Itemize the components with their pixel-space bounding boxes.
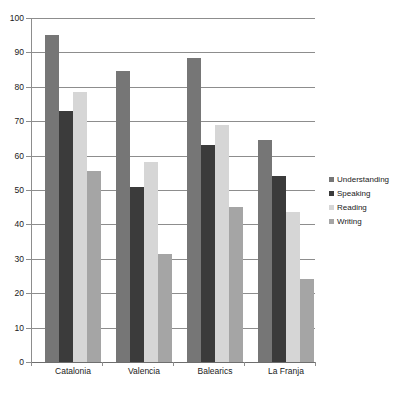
y-tick-label-40: 40 xyxy=(2,220,24,229)
bar-valencia-reading xyxy=(144,162,158,362)
bar-group-la-franja xyxy=(258,18,314,362)
bar-catalonia-writing xyxy=(87,171,101,362)
y-axis-tick-labels: 1009080706050403020100 xyxy=(0,0,24,403)
bar-balearics-writing xyxy=(229,207,243,362)
legend-item-reading[interactable]: Reading xyxy=(329,200,415,214)
bar-catalonia-speaking xyxy=(59,111,73,362)
legend-swatch-speaking xyxy=(329,191,334,196)
legend-item-speaking[interactable]: Speaking xyxy=(329,186,415,200)
legend-swatch-understanding xyxy=(329,177,334,182)
bar-balearics-reading xyxy=(215,125,229,362)
y-tick-label-70: 70 xyxy=(2,117,24,126)
plot-area xyxy=(31,18,315,362)
legend-swatch-reading xyxy=(329,205,334,210)
y-tick-label-60: 60 xyxy=(2,152,24,161)
legend-item-writing[interactable]: Writing xyxy=(329,214,415,228)
bar-catalonia-reading xyxy=(73,92,87,362)
y-tick-label-30: 30 xyxy=(2,255,24,264)
bar-la-franja-speaking xyxy=(272,176,286,362)
y-tick-label-90: 90 xyxy=(2,48,24,57)
bar-valencia-understanding xyxy=(116,71,130,362)
y-tick-label-100: 100 xyxy=(2,14,24,23)
bar-chart: 1009080706050403020100 CataloniaValencia… xyxy=(0,0,415,403)
bar-balearics-speaking xyxy=(201,145,215,362)
bar-group-balearics xyxy=(187,18,243,362)
legend-label-speaking: Speaking xyxy=(337,189,370,198)
y-tick-label-50: 50 xyxy=(2,186,24,195)
y-tick-label-0: 0 xyxy=(2,358,24,367)
y-tick-label-10: 10 xyxy=(2,324,24,333)
legend-label-understanding: Understanding xyxy=(337,175,389,184)
legend-label-reading: Reading xyxy=(337,203,367,212)
bar-la-franja-writing xyxy=(300,279,314,362)
bar-group-valencia xyxy=(116,18,172,362)
chart-legend: UnderstandingSpeakingReadingWriting xyxy=(329,172,415,228)
x-axis-labels: CataloniaValenciaBalearicsLa Franja xyxy=(31,366,315,382)
legend-label-writing: Writing xyxy=(337,217,362,226)
bar-valencia-writing xyxy=(158,254,172,362)
legend-swatch-writing xyxy=(329,219,334,224)
bar-group-catalonia xyxy=(45,18,101,362)
bar-catalonia-understanding xyxy=(45,35,59,362)
bar-balearics-understanding xyxy=(187,58,201,362)
bar-la-franja-reading xyxy=(286,212,300,362)
x-label-la-franja: La Franja xyxy=(241,366,331,376)
y-tick-label-20: 20 xyxy=(2,289,24,298)
y-tick-label-80: 80 xyxy=(2,83,24,92)
bar-la-franja-understanding xyxy=(258,140,272,362)
bar-valencia-speaking xyxy=(130,187,144,362)
legend-item-understanding[interactable]: Understanding xyxy=(329,172,415,186)
